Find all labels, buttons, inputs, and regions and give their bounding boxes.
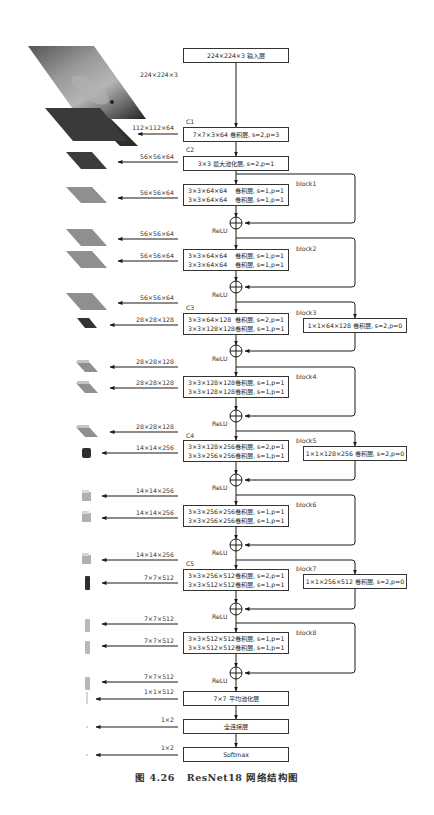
block4-label: block4 bbox=[296, 373, 316, 381]
figure-caption: 图 4.26ResNet18 网络结构图 bbox=[0, 770, 434, 784]
stage-tag-c3: C3 bbox=[186, 304, 194, 312]
block6-in-label: 14×14×256 bbox=[120, 509, 174, 517]
block2-in-label: 56×56×64 bbox=[130, 252, 174, 260]
input-layer-box: 224×224×3 输入层 bbox=[183, 48, 289, 63]
input-size-label: 224×224×3 bbox=[140, 71, 178, 79]
relu-label: ReLU bbox=[212, 613, 228, 621]
c2-output-label: 56×56×64 bbox=[130, 153, 174, 161]
block1-box: 3×3×64×64卷积层, s=1,p=1 3×3×64×64卷积层, s=1,… bbox=[183, 184, 289, 206]
block5-box: 3×3×128×256卷积层, s=2,p=1 3×3×256×256卷积层, … bbox=[183, 440, 289, 462]
head-pre-label: 7×7×512 bbox=[120, 673, 174, 681]
input-layer-label: 224×224×3 输入层 bbox=[207, 51, 265, 60]
stage-tag-c5: C5 bbox=[186, 560, 194, 568]
block5-in-label: 14×14×256 bbox=[120, 444, 174, 452]
relu-label: ReLU bbox=[212, 420, 228, 428]
block6-label: block6 bbox=[296, 501, 316, 509]
block8-label: block8 bbox=[296, 629, 316, 637]
block8-pre-label: 7×7×512 bbox=[120, 615, 174, 623]
softmax-output-label: 1×2 bbox=[120, 744, 174, 752]
avgpool-output-label: 1×1×512 bbox=[120, 688, 174, 696]
conv1-label: 7×7×3×64 卷积层, s=2,p=3 bbox=[193, 130, 280, 139]
relu-label: ReLU bbox=[212, 549, 228, 557]
block3-box: 3×3×64×128卷积层, s=2,p=1 3×3×128×128卷积层, s… bbox=[183, 313, 289, 335]
stage-tag-c4: C4 bbox=[186, 432, 194, 440]
block7-label: block7 bbox=[296, 565, 316, 573]
caption-number: 图 4.26 bbox=[135, 772, 174, 783]
block1-label: block1 bbox=[296, 180, 316, 188]
block2-pre-label: 56×56×64 bbox=[130, 230, 174, 238]
block6-box: 3×3×256×256卷积层, s=1,p=1 3×3×256×256卷积层, … bbox=[183, 505, 289, 527]
relu-label: ReLU bbox=[212, 355, 228, 363]
block3-label: block3 bbox=[296, 309, 316, 317]
fc-box: 全连接层 bbox=[183, 719, 289, 734]
maxpool-box: 3×3 最大池化层, s=2,p=1 bbox=[183, 156, 289, 171]
block8-box: 3×3×512×512卷积层, s=1,p=1 3×3×512×512卷积层, … bbox=[183, 632, 289, 654]
block4-in-label: 28×28×128 bbox=[120, 379, 174, 387]
fc-output-label: 1×2 bbox=[120, 716, 174, 724]
block4-box: 3×3×128×128卷积层, s=1,p=1 3×3×128×128卷积层, … bbox=[183, 376, 289, 398]
maxpool-label: 3×3 最大池化层, s=2,p=1 bbox=[198, 159, 274, 168]
block4-pre-label: 28×28×128 bbox=[120, 358, 174, 366]
block3-in-label: 28×28×128 bbox=[120, 316, 174, 324]
caption-title: ResNet18 网络结构图 bbox=[187, 772, 299, 783]
avgpool-box: 7×7 平均池化层 bbox=[183, 691, 289, 706]
relu-label: ReLU bbox=[212, 677, 228, 685]
stage-tag-c2: C2 bbox=[186, 146, 194, 154]
c1-output-label: 112×112×64 bbox=[130, 124, 174, 132]
relu-label: ReLU bbox=[212, 227, 228, 235]
block5-pre-label: 28×28×128 bbox=[120, 423, 174, 431]
block8-in-label: 7×7×512 bbox=[120, 637, 174, 645]
stage-tag-c1: C1 bbox=[186, 118, 194, 126]
block6-pre-label: 14×14×256 bbox=[120, 487, 174, 495]
block1-in-label: 56×56×64 bbox=[130, 189, 174, 197]
block5-label: block5 bbox=[296, 437, 316, 445]
relu-label: ReLU bbox=[212, 484, 228, 492]
block3-pre-label: 56×56×64 bbox=[130, 294, 174, 302]
block7-shortcut-box: 1×1×256×512 卷积层, s=2,p=0 bbox=[303, 574, 407, 589]
block7-in-label: 7×7×512 bbox=[120, 574, 174, 582]
conv1-box: 7×7×3×64 卷积层, s=2,p=3 bbox=[183, 127, 289, 142]
block2-label: block2 bbox=[296, 245, 316, 253]
relu-label: ReLU bbox=[212, 291, 228, 299]
block3-shortcut-box: 1×1×64×128 卷积层, s=2,p=0 bbox=[303, 318, 407, 333]
block5-shortcut-box: 1×1×128×256 卷积层, s=2,p=0 bbox=[303, 446, 407, 461]
block7-pre-label: 14×14×256 bbox=[120, 551, 174, 559]
block2-box: 3×3×64×64卷积层, s=1,p=1 3×3×64×64卷积层, s=1,… bbox=[183, 249, 289, 271]
resnet18-diagram: 224×224×3 输入层 224×224×3 C1 7×7×3×64 卷积层,… bbox=[0, 0, 434, 815]
softmax-box: Softmax bbox=[183, 747, 289, 762]
block7-box: 3×3×256×512卷积层, s=2,p=1 3×3×512×512卷积层, … bbox=[183, 569, 289, 591]
